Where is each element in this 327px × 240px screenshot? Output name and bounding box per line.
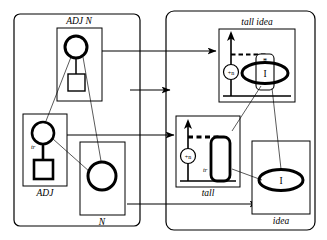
adj-bold-circle [32, 122, 54, 144]
tall-bold-rounded-rect [211, 137, 230, 181]
idea-i-label: I [279, 176, 282, 186]
adjn-bold-circle [65, 36, 87, 58]
idea-box-label: idea [273, 216, 290, 226]
adj-tr-label: tr [31, 143, 36, 150]
adj-box-label: ADJ [36, 188, 55, 198]
diagram-canvas: ADJ N ADJ tr N tall idea * +n I tall +n [0, 0, 327, 240]
tall-box-label: tall [202, 188, 215, 198]
diagram-svg: ADJ N ADJ tr N tall idea * +n I tall +n [0, 0, 327, 240]
adj-bold-square [34, 160, 53, 179]
tall-plus-n-label: +n [185, 154, 191, 160]
n-box-label: N [98, 217, 106, 227]
tall-idea-box-label: tall idea [241, 17, 273, 27]
tall-idea-i-label: I [263, 69, 266, 79]
n-bold-circle [88, 162, 116, 190]
adjn-thin-square [68, 74, 85, 91]
adjn-box-label: ADJ N [65, 16, 92, 26]
tall-idea-plus-n-label: +n [228, 70, 234, 76]
tall-tr-label: tr [203, 166, 208, 173]
